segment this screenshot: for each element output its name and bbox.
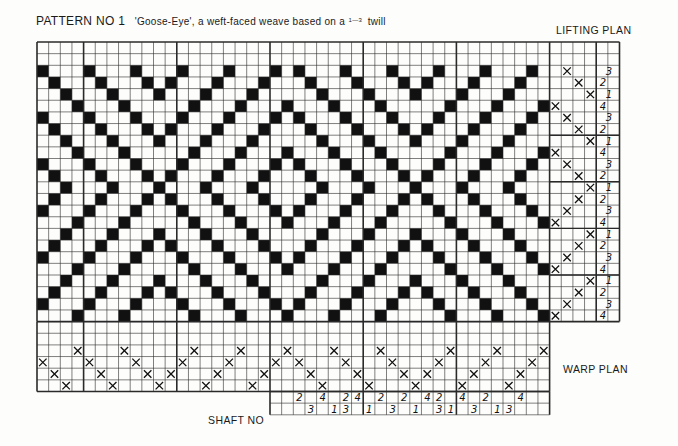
- drawdown-cell-filled: [526, 205, 538, 217]
- drawdown-cell-filled: [84, 65, 96, 77]
- x-mark-icon: [295, 359, 302, 366]
- drawdown-cell-filled: [130, 298, 142, 310]
- shaft-number: 2: [296, 392, 302, 403]
- drawdown-cell-filled: [212, 77, 224, 89]
- drawdown-cell-filled: [235, 100, 247, 112]
- lift-shaft-number: 4: [600, 264, 606, 275]
- drawdown-cell-filled: [538, 310, 550, 322]
- drawdown-cell-filled: [387, 252, 399, 264]
- drawdown-cell-filled: [177, 205, 189, 217]
- drawdown-cell-filled: [538, 217, 550, 229]
- x-mark-icon: [330, 347, 337, 354]
- lift-shaft-number: 1: [606, 89, 612, 100]
- drawdown-cell-filled: [421, 193, 433, 205]
- drawdown-cell-filled: [433, 159, 445, 171]
- x-mark-icon: [389, 359, 396, 366]
- drawdown-cell-filled: [352, 77, 364, 89]
- drawdown-cell-filled: [177, 252, 189, 264]
- drawdown-cell-filled: [270, 298, 282, 310]
- drawdown-cell-filled: [72, 100, 84, 112]
- drawdown-cell-filled: [200, 228, 212, 240]
- drawdown-cell-filled: [480, 159, 492, 171]
- drawdown-cell-filled: [328, 217, 340, 229]
- lift-shaft-number: 3: [606, 159, 612, 170]
- x-mark-icon: [587, 277, 594, 284]
- drawdown-cell-filled: [165, 240, 177, 252]
- drawdown-cell-filled: [49, 124, 61, 136]
- drawdown-cell-filled: [223, 298, 235, 310]
- drawdown-cell-filled: [515, 77, 527, 89]
- x-mark-icon: [493, 347, 500, 354]
- x-mark-icon: [237, 347, 244, 354]
- drawdown-cell-filled: [165, 287, 177, 299]
- drawdown-cell-filled: [456, 275, 468, 287]
- drawdown-cell-filled: [480, 112, 492, 124]
- drawdown-cell-filled: [72, 310, 84, 322]
- drawdown-cell-filled: [154, 135, 166, 147]
- x-mark-icon: [132, 359, 139, 366]
- drawdown-cell-filled: [363, 228, 375, 240]
- drawdown-cell-filled: [84, 298, 96, 310]
- shaft-number: 2: [401, 392, 407, 403]
- drawdown-cell-filled: [247, 182, 259, 194]
- x-mark-icon: [167, 370, 174, 377]
- lift-shaft-number: 4: [600, 147, 606, 158]
- shaft-number: 1: [494, 404, 500, 415]
- x-mark-icon: [575, 79, 582, 86]
- x-mark-icon: [563, 300, 570, 307]
- drawdown-cell-filled: [421, 240, 433, 252]
- drawdown-cell-filled: [188, 217, 200, 229]
- drawdown-cell-filled: [282, 263, 294, 275]
- drawdown-cell-filled: [282, 217, 294, 229]
- drawdown-cell-filled: [445, 217, 457, 229]
- lift-shaft-number: 1: [606, 182, 612, 193]
- drawdown-cell-filled: [119, 217, 131, 229]
- drawdown-cell-filled: [270, 159, 282, 171]
- x-mark-icon: [470, 370, 477, 377]
- drawdown-cell-filled: [107, 135, 119, 147]
- drawdown-cell-filled: [433, 252, 445, 264]
- x-mark-icon: [575, 289, 582, 296]
- drawdown-cell-filled: [119, 263, 131, 275]
- drawdown-cell-filled: [305, 287, 317, 299]
- drawdown-cell-filled: [317, 275, 329, 287]
- drawdown-cell-filled: [60, 135, 72, 147]
- drawdown-cell-filled: [177, 112, 189, 124]
- lift-shaft-number: 3: [606, 252, 612, 263]
- drawdown-cell-filled: [340, 112, 352, 124]
- drawdown-cell-filled: [95, 240, 107, 252]
- drawdown-cell-filled: [247, 228, 259, 240]
- drawdown-cell-filled: [95, 170, 107, 182]
- drawdown-cell-filled: [258, 240, 270, 252]
- drawdown-cell-filled: [421, 124, 433, 136]
- lift-shaft-number: 2: [600, 77, 606, 88]
- drawdown-cell-filled: [37, 205, 49, 217]
- drawdown-cell-filled: [515, 287, 527, 299]
- drawdown-cell-filled: [375, 100, 387, 112]
- drawdown-cell-filled: [387, 112, 399, 124]
- x-mark-icon: [260, 370, 267, 377]
- drawdown-cell-filled: [491, 147, 503, 159]
- drawdown-cell-filled: [398, 77, 410, 89]
- shaft-number: 4: [459, 392, 465, 403]
- drawdown-cell-filled: [270, 65, 282, 77]
- lift-shaft-number: 1: [606, 275, 612, 286]
- lift-shaft-number: 1: [606, 229, 612, 240]
- drawdown-cell-filled: [200, 182, 212, 194]
- drawdown-cell-filled: [235, 263, 247, 275]
- drawdown-cell-filled: [410, 89, 422, 101]
- drawdown-cell-filled: [480, 298, 492, 310]
- x-mark-icon: [587, 91, 594, 98]
- drawdown-cell-filled: [188, 263, 200, 275]
- drawdown-cell-filled: [491, 310, 503, 322]
- drawdown-cell-filled: [515, 240, 527, 252]
- drawdown-cell-filled: [177, 65, 189, 77]
- drawdown-cell-filled: [107, 182, 119, 194]
- shaft-number: 4: [354, 392, 360, 403]
- drawdown-cell-filled: [340, 159, 352, 171]
- x-mark-icon: [563, 254, 570, 261]
- drawdown-cell-filled: [491, 217, 503, 229]
- drawdown-cell-filled: [282, 310, 294, 322]
- drawdown-cell-filled: [352, 124, 364, 136]
- shaft-number: 1: [331, 404, 337, 415]
